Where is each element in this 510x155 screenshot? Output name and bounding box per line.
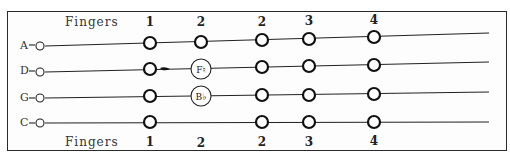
note-a-1-icon <box>144 37 156 49</box>
note-g-4-icon <box>303 89 315 101</box>
note-a-2-icon <box>195 36 207 48</box>
note-c-5-icon <box>368 116 380 128</box>
note-d-3-icon <box>256 61 268 73</box>
open-string-d-icon <box>36 68 44 76</box>
note-g-3-icon <box>256 89 268 101</box>
note-g-5-icon <box>368 88 380 100</box>
note-f-natural-label: F♮ <box>196 65 205 75</box>
note-a-4-icon <box>303 33 315 45</box>
note-c-4-icon <box>303 116 315 128</box>
note-d-1-icon <box>144 63 156 75</box>
open-string-g-icon <box>36 94 44 102</box>
note-d-5-icon <box>368 59 380 71</box>
note-d-4-icon <box>303 60 315 72</box>
note-b-flat-label: B♭ <box>196 92 207 102</box>
note-c-3-icon <box>256 116 268 128</box>
note-c-1-icon <box>144 116 156 128</box>
note-g-1-icon <box>144 90 156 102</box>
open-string-c-icon <box>36 119 44 127</box>
note-a-3-icon <box>256 34 268 46</box>
open-string-a-icon <box>36 42 44 50</box>
fingerboard-diagram: F♮ B♭ <box>0 0 510 155</box>
note-a-5-icon <box>368 31 380 43</box>
